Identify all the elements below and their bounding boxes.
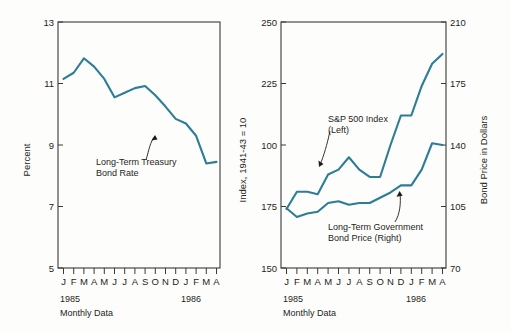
right-left-ytick-200: 100 (261, 140, 277, 151)
right-month-8: S (367, 276, 373, 287)
right-left-ytick-250: 250 (261, 17, 277, 28)
index-axis-title: Index, 1941-43 = 10 (237, 118, 248, 203)
left-month-15: A (213, 276, 220, 287)
right-month-3: A (315, 276, 322, 287)
right-right-ytick-210: 210 (450, 17, 466, 28)
figure-container: 13 11 9 7 5 Percent (0, 0, 510, 331)
right-month-4: M (324, 276, 332, 287)
left-month-0: J (61, 276, 66, 287)
left-month-10: N (162, 276, 169, 287)
left-y-axis: 13 11 9 7 5 (43, 17, 63, 274)
dual-panel-chart: 13 11 9 7 5 Percent (0, 0, 510, 331)
right-year-end: 1986 (406, 294, 426, 304)
left-month-8: S (142, 276, 148, 287)
left-annotation-line2: Bond Rate (96, 168, 139, 178)
right-panel: 250 225 100 175 150 210 175 140 105 70 B… (261, 17, 489, 319)
right-month-10: N (387, 276, 394, 287)
left-annotation-line1: Long-Term Treasury (96, 157, 177, 167)
right-left-ytick-150: 150 (261, 263, 277, 274)
sp500-annotation: S&P 500 Index (Left) (319, 114, 389, 167)
right-month-12: J (409, 276, 414, 287)
left-annotation-arrowhead (152, 135, 158, 141)
right-month-13: F (419, 276, 425, 287)
series-government-bond-price (287, 143, 443, 217)
right-right-ytick-140: 140 (450, 140, 466, 151)
right-left-ytick-225: 225 (261, 78, 277, 89)
right-month-0: J (284, 276, 289, 287)
right-month-14: M (428, 276, 436, 287)
bond-price-axis-title: Bond Price in Dollars (478, 115, 489, 204)
right-right-ytick-70: 70 (450, 263, 461, 274)
left-ytick-7: 7 (49, 201, 54, 212)
right-month-7: A (356, 276, 363, 287)
left-month-13: F (193, 276, 199, 287)
right-month-2: M (303, 276, 311, 287)
right-x-axis-ticks (287, 268, 443, 274)
left-annotation: Long-Term Treasury Bond Rate (96, 135, 177, 178)
right-month-11: D (397, 276, 404, 287)
right-year-start: 1985 (283, 294, 303, 304)
left-x-axis-labels: J F M A M J J A S O N D J F M A (61, 276, 220, 287)
left-month-6: J (122, 276, 127, 287)
series-sp500-index (287, 54, 443, 209)
left-month-9: O (152, 276, 159, 287)
sp500-annotation-line2: (Left) (328, 125, 349, 135)
right-x-axis-labels: J F M A M J J A S O N D J F M A (284, 276, 446, 287)
left-year-end: 1986 (181, 294, 201, 304)
left-month-12: J (184, 276, 189, 287)
left-x-axis-ticks (64, 268, 217, 274)
left-month-4: M (100, 276, 108, 287)
right-left-y-axis: 250 225 100 175 150 (261, 17, 286, 274)
right-month-9: O (376, 276, 383, 287)
left-month-7: A (132, 276, 139, 287)
left-month-14: M (202, 276, 210, 287)
left-month-1: F (71, 276, 77, 287)
bond-price-annotation-line1: Long-Term Government (328, 222, 424, 232)
left-month-2: M (80, 276, 88, 287)
left-panel: 13 11 9 7 5 Percent (21, 17, 220, 319)
left-ytick-11: 11 (44, 78, 54, 89)
left-y-axis-title: Percent (21, 143, 32, 176)
left-year-start: 1985 (60, 294, 80, 304)
right-caption: Monthly Data (283, 308, 336, 318)
right-right-ytick-105: 105 (450, 201, 466, 212)
left-caption: Monthly Data (60, 308, 113, 318)
bond-price-annotation-arrowhead (397, 191, 403, 197)
left-ytick-5: 5 (49, 263, 54, 274)
right-month-5: J (336, 276, 341, 287)
left-month-5: J (112, 276, 117, 287)
right-right-y-axis: 210 175 140 105 70 (441, 17, 466, 274)
sp500-annotation-line1: S&P 500 Index (328, 114, 388, 124)
left-ytick-13: 13 (43, 17, 54, 28)
right-month-1: F (294, 276, 300, 287)
series-treasury-bond-rate (64, 58, 217, 163)
right-month-15: A (439, 276, 446, 287)
bond-price-annotation-line2: Bond Price (Right) (328, 233, 402, 243)
right-right-ytick-175: 175 (450, 78, 466, 89)
left-ytick-9: 9 (49, 140, 54, 151)
left-month-11: D (172, 276, 179, 287)
left-month-3: A (91, 276, 98, 287)
right-left-ytick-175: 175 (261, 201, 277, 212)
right-month-6: J (347, 276, 352, 287)
